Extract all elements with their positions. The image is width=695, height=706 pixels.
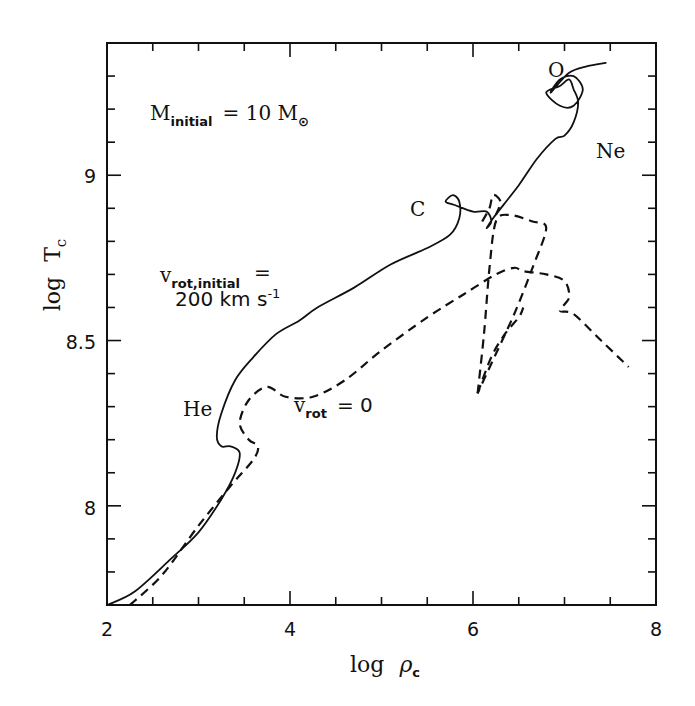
- label-ne-burning: Ne: [596, 139, 625, 163]
- x-tick-label-8: 8: [650, 618, 662, 640]
- svg-text:200 km s-1: 200 km s-1: [175, 286, 280, 311]
- annotation-initial-mass: Minitial= 10 M⊙: [150, 101, 309, 129]
- annotation-vrot-zero: vrot= 0: [293, 393, 373, 421]
- x-tick-label-2: 2: [101, 618, 113, 640]
- curve-nonrotating-main: [130, 268, 629, 605]
- curve-nonrotating-branch-0: [478, 215, 547, 394]
- label-o-burning: O: [548, 58, 564, 82]
- svg-text:log ρc: log ρc: [350, 652, 420, 680]
- chart-canvas: 2 4 6 8 8 8.5 9 log ρc log Tc Minitial= …: [0, 0, 695, 706]
- y-axis-title: log Tc: [40, 239, 70, 311]
- x-tick-label-6: 6: [467, 618, 479, 640]
- label-he-burning: He: [183, 397, 212, 421]
- y-tick-label-9: 9: [84, 165, 96, 187]
- svg-text:vrot= 0: vrot= 0: [293, 393, 373, 421]
- x-tick-label-4: 4: [284, 618, 296, 640]
- annotation-vrot-initial: vrot,initial= 200 km s-1: [159, 261, 280, 311]
- curve-rotating-200kms: [107, 63, 606, 605]
- y-tick-label-8: 8: [84, 497, 96, 519]
- svg-text:Minitial= 10 M⊙: Minitial= 10 M⊙: [150, 101, 309, 129]
- y-tick-label-8-5: 8.5: [66, 331, 96, 353]
- label-c-burning: C: [410, 197, 425, 221]
- svg-text:log Tc: log Tc: [40, 239, 70, 311]
- x-axis-title: log ρc: [350, 652, 420, 680]
